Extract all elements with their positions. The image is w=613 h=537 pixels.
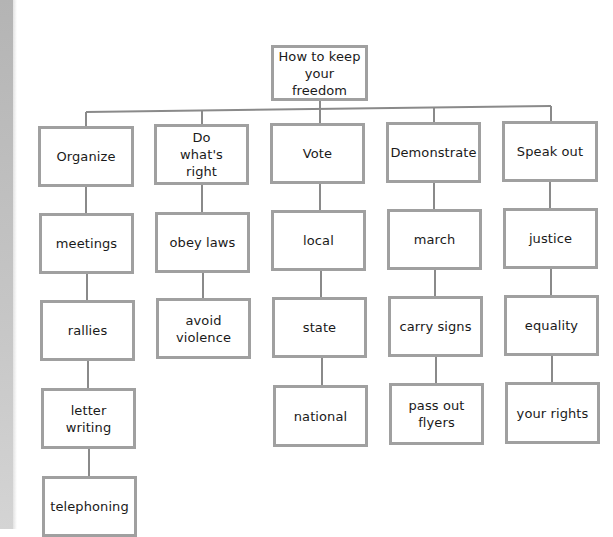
branch-do-whats-right: Do what's right — [154, 124, 249, 185]
branch-label: Do what's right — [173, 129, 230, 180]
branch-label: Vote — [303, 145, 332, 162]
node-local: local — [271, 210, 366, 271]
root-label-line2: your freedom — [278, 65, 361, 99]
branch-vote: Vote — [270, 123, 365, 184]
node-label: letter writing — [66, 402, 111, 436]
branch-label: Speak out — [517, 143, 583, 160]
root-node: How to keep your freedom — [271, 45, 368, 101]
node-label: telephoning — [50, 498, 129, 515]
node-label: obey laws — [170, 234, 236, 251]
node-label: avoid violence — [175, 312, 232, 346]
branch-demonstrate: Demonstrate — [386, 122, 481, 183]
branch-label: Organize — [56, 148, 115, 165]
node-label: national — [294, 408, 348, 425]
node-label: pass out flyers — [408, 397, 465, 431]
node-label: your rights — [517, 405, 589, 422]
node-rallies: rallies — [40, 300, 135, 361]
root-label-line1: How to keep — [278, 48, 361, 65]
node-national: national — [273, 385, 368, 447]
node-your-rights: your rights — [505, 382, 600, 444]
node-justice: justice — [503, 208, 598, 269]
node-label: equality — [525, 317, 578, 334]
node-equality: equality — [504, 295, 599, 356]
branch-speak-out: Speak out — [502, 121, 598, 182]
node-label: justice — [529, 230, 572, 247]
node-label: rallies — [68, 322, 108, 339]
node-avoid-violence: avoid violence — [156, 298, 251, 359]
node-meetings: meetings — [39, 213, 134, 274]
node-label: meetings — [56, 235, 117, 252]
node-label: state — [303, 319, 336, 336]
node-label: local — [303, 232, 334, 249]
node-carry-signs: carry signs — [388, 296, 483, 357]
node-march: march — [387, 209, 482, 270]
branch-organize: Organize — [38, 126, 134, 187]
node-obey-laws: obey laws — [155, 212, 250, 273]
node-pass-out-flyers: pass out flyers — [389, 383, 484, 445]
node-letter-writing: letter writing — [41, 388, 136, 449]
node-state: state — [272, 297, 367, 358]
node-label: carry signs — [399, 318, 471, 335]
node-telephoning: telephoning — [42, 476, 137, 537]
node-label: march — [414, 231, 456, 248]
branch-label: Demonstrate — [390, 144, 476, 161]
